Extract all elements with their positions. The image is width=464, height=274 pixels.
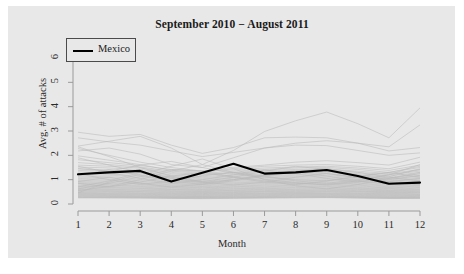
y-axis-label: Avg. # of attacks [37, 64, 48, 164]
x-tick-label: 3 [128, 219, 152, 230]
y-tick-label: 0 [49, 196, 60, 210]
x-tick-label: 11 [377, 219, 401, 230]
y-tick-label: 1 [49, 171, 60, 185]
y-tick-label: 2 [49, 147, 60, 161]
highlight-series-line-mexico [78, 164, 420, 184]
legend-box: Mexico [66, 38, 136, 62]
x-tick-label: 12 [408, 219, 432, 230]
y-tick-label: 4 [49, 98, 60, 112]
x-tick-label: 9 [315, 219, 339, 230]
y-tick-label: 3 [49, 123, 60, 137]
y-tick-label: 5 [49, 74, 60, 88]
legend-line-sample-mexico [73, 50, 93, 52]
x-tick-label: 8 [284, 219, 308, 230]
chart-root: September 2010 − August 2011 0123456 123… [0, 0, 464, 274]
x-tick-label: 2 [97, 219, 121, 230]
x-tick-label: 4 [159, 219, 183, 230]
x-tick-label: 6 [221, 219, 245, 230]
x-tick-label: 5 [190, 219, 214, 230]
x-tick-label: 7 [253, 219, 277, 230]
y-tick-label: 6 [49, 50, 60, 64]
x-tick-label: 1 [66, 219, 90, 230]
legend-label-mexico: Mexico [98, 43, 130, 54]
x-axis-label: Month [0, 238, 464, 249]
x-tick-label: 10 [346, 219, 370, 230]
